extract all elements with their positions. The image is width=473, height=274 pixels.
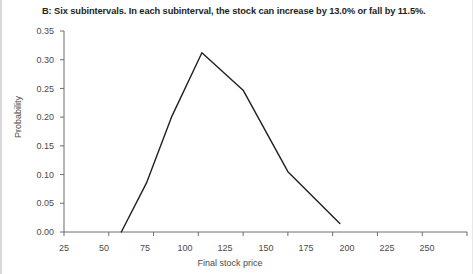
plot-area: Probability Final stock price 0.35 0.30 … [2,0,473,274]
x-tick-marks [64,232,467,236]
y-tick-marks [60,31,64,232]
chart-figure: B: Six subintervals. In each subinterval… [0,0,473,274]
probability-distribution-line [121,53,340,232]
chart-canvas [2,0,473,274]
